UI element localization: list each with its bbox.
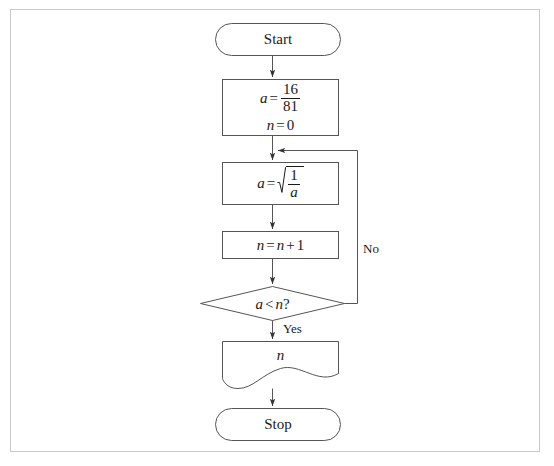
edge-label-no: No bbox=[363, 241, 379, 257]
node-output-shape[interactable] bbox=[223, 342, 339, 389]
node-decision-shape[interactable] bbox=[201, 287, 345, 321]
node-increment-shape[interactable] bbox=[223, 232, 339, 259]
edge-label-yes: Yes bbox=[283, 321, 302, 337]
flowchart-canvas bbox=[0, 0, 554, 466]
node-iterate-shape[interactable] bbox=[223, 163, 339, 205]
node-stop-shape[interactable] bbox=[216, 409, 341, 441]
flowchart-page: Start a= 16 81 n=0 a= 1 bbox=[0, 0, 554, 466]
node-init-shape[interactable] bbox=[223, 80, 339, 136]
node-start-shape[interactable] bbox=[216, 24, 341, 56]
